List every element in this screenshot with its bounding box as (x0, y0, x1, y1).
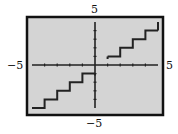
y-max-label: 5 (91, 4, 98, 15)
x-min-label: −5 (7, 60, 23, 71)
x-max-label: 5 (166, 60, 173, 71)
y-min-label: −5 (86, 118, 102, 129)
chart-plot (0, 0, 178, 134)
